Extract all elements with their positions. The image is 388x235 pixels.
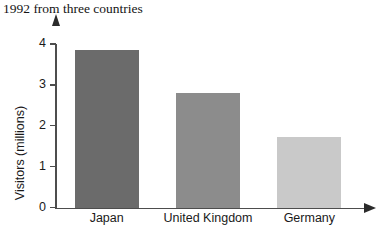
category-label-germany: Germany: [239, 211, 379, 225]
bar-united-kingdom: [176, 93, 240, 207]
bar-germany: [277, 137, 341, 208]
bar-series: [0, 0, 388, 208]
plot-area: 01234 Visitors (millions) JapanUnited Ki…: [0, 0, 388, 235]
bar-japan: [75, 50, 139, 207]
chart-figure: 1992 from three countries 01234 Visitors…: [0, 0, 388, 235]
